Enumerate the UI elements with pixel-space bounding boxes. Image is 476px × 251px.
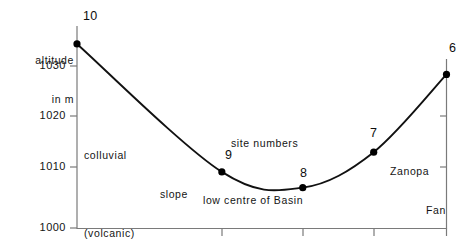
point-label-site-9: 9 [225, 148, 232, 162]
annotation-low-centre-of-basin: low centre of Basin [203, 194, 303, 207]
annotation-colluvial-slope: colluvial slope (volcanic) [84, 123, 188, 251]
data-point-site-6 [443, 71, 450, 78]
annotation-colluvial-line1: colluvial [84, 149, 188, 162]
y-tick-label-1000: 1000 [16, 221, 66, 233]
data-point-site-7 [370, 149, 377, 156]
annotation-zanopa-fan: Zanopa Fan [390, 139, 446, 243]
annotation-colluvial-line2: slope [84, 188, 188, 201]
point-label-site-10: 10 [83, 9, 98, 23]
annotation-zanopa-line2: Fan [390, 204, 446, 217]
point-label-site-8: 8 [300, 166, 307, 180]
altitude-profile-chart: altitude in m 1030 1020 1010 1000 colluv… [0, 0, 476, 251]
data-point-site-9 [218, 168, 225, 175]
annotation-colluvial-line3: (volcanic) [84, 227, 188, 240]
y-axis-title-line2: in m [8, 93, 74, 106]
y-tick-label-1030: 1030 [16, 59, 66, 71]
y-tick-label-1010: 1010 [16, 160, 66, 172]
y-tick-label-1020: 1020 [16, 109, 66, 121]
data-point-site-10 [73, 40, 80, 47]
data-point-site-8 [299, 184, 306, 191]
point-label-site-7: 7 [370, 126, 377, 140]
annotation-site-numbers: site numbers [231, 137, 298, 150]
point-label-site-6: 6 [449, 41, 456, 55]
annotation-zanopa-line1: Zanopa [390, 165, 446, 178]
